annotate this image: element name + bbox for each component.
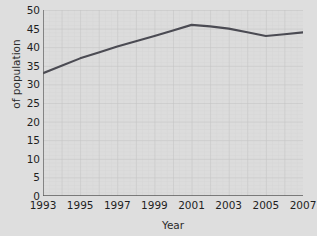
x-axis-tick-label: 2003 (209, 200, 249, 211)
x-axis-tick-label: 1999 (134, 200, 174, 211)
x-axis-tick-label: 1993 (23, 200, 63, 211)
x-axis-tick-label: 2007 (283, 200, 317, 211)
x-axis-tick-labels: 19931995199719992001200320052007 (43, 200, 303, 216)
y-axis-tick-label: 15 (14, 135, 40, 146)
y-axis-tick-label: 10 (14, 154, 40, 165)
x-axis-title: Year (42, 219, 304, 231)
plot-area (43, 10, 303, 196)
x-axis-tick-label: 1995 (60, 200, 100, 211)
x-axis-tick-label: 2001 (172, 200, 212, 211)
x-axis-tick-label: 1997 (97, 200, 137, 211)
y-axis-title: of population (10, 14, 22, 134)
line-chart: of population 05101520253035404550 (0, 0, 317, 236)
x-axis-tick-label: 2005 (246, 200, 286, 211)
chart-canvas (43, 10, 303, 196)
y-axis-tick-label: 5 (14, 172, 40, 183)
y-axis-tick-label: 0 (14, 191, 40, 202)
